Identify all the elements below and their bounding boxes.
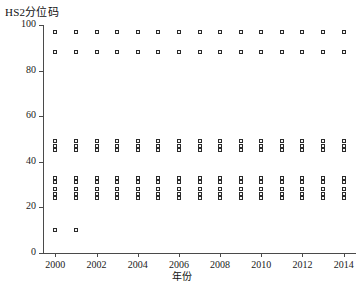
scatter-point	[177, 187, 181, 191]
scatter-point	[74, 196, 78, 200]
scatter-point	[156, 139, 160, 143]
x-axis-label: 年份	[0, 268, 364, 283]
scatter-point	[198, 192, 202, 196]
scatter-point	[53, 187, 57, 191]
scatter-point	[300, 148, 304, 152]
scatter-point	[74, 30, 78, 34]
scatter-point	[239, 30, 243, 34]
chart-title: HS2分位码	[5, 3, 59, 19]
scatter-point	[280, 180, 284, 184]
scatter-point	[259, 180, 263, 184]
x-tick-mark	[261, 253, 262, 257]
scatter-point	[156, 144, 160, 148]
scatter-point	[198, 187, 202, 191]
scatter-point	[74, 180, 78, 184]
scatter-point	[74, 176, 78, 180]
scatter-point	[198, 30, 202, 34]
x-tick-mark	[97, 253, 98, 257]
scatter-point	[321, 148, 325, 152]
scatter-point	[74, 192, 78, 196]
scatter-point	[239, 148, 243, 152]
y-tick-label: 60	[26, 109, 36, 120]
scatter-point	[321, 180, 325, 184]
scatter-point	[280, 148, 284, 152]
scatter-point	[342, 180, 346, 184]
scatter-point	[198, 148, 202, 152]
scatter-point	[115, 139, 119, 143]
scatter-point	[74, 228, 78, 232]
y-tick-label: 100	[21, 18, 36, 29]
scatter-point	[321, 187, 325, 191]
scatter-point	[300, 50, 304, 54]
scatter-point	[280, 50, 284, 54]
scatter-point	[136, 192, 140, 196]
y-tick-mark	[39, 162, 43, 163]
scatter-point	[321, 50, 325, 54]
scatter-point	[280, 196, 284, 200]
scatter-point	[74, 50, 78, 54]
scatter-point	[115, 148, 119, 152]
scatter-point	[136, 196, 140, 200]
scatter-point	[280, 139, 284, 143]
scatter-point	[239, 187, 243, 191]
scatter-point	[53, 228, 57, 232]
y-tick-label: 0	[31, 246, 36, 257]
x-tick-mark	[302, 253, 303, 257]
scatter-point	[280, 187, 284, 191]
scatter-point	[321, 192, 325, 196]
scatter-point	[95, 176, 99, 180]
scatter-point	[342, 139, 346, 143]
scatter-point	[259, 196, 263, 200]
scatter-point	[218, 196, 222, 200]
plot-area: 020406080100 200020022004200620082010201…	[43, 25, 356, 253]
scatter-point	[53, 30, 57, 34]
scatter-point	[300, 187, 304, 191]
scatter-point	[95, 192, 99, 196]
scatter-point	[177, 148, 181, 152]
y-tick-mark	[39, 71, 43, 72]
x-axis-line	[43, 253, 356, 254]
scatter-point	[198, 50, 202, 54]
scatter-point	[342, 30, 346, 34]
scatter-point	[115, 30, 119, 34]
scatter-point	[115, 176, 119, 180]
scatter-point	[95, 144, 99, 148]
scatter-point	[74, 148, 78, 152]
scatter-point	[156, 196, 160, 200]
y-tick-mark	[39, 116, 43, 117]
scatter-point	[259, 176, 263, 180]
scatter-point	[218, 148, 222, 152]
scatter-point	[115, 187, 119, 191]
scatter-point	[136, 139, 140, 143]
scatter-point	[95, 180, 99, 184]
scatter-point	[177, 139, 181, 143]
scatter-point	[136, 187, 140, 191]
scatter-point	[115, 192, 119, 196]
scatter-point	[300, 196, 304, 200]
scatter-point	[95, 148, 99, 152]
scatter-point	[136, 50, 140, 54]
scatter-point	[342, 196, 346, 200]
scatter-point	[321, 30, 325, 34]
scatter-point	[74, 139, 78, 143]
scatter-point	[177, 192, 181, 196]
scatter-point	[53, 50, 57, 54]
scatter-point	[198, 139, 202, 143]
scatter-point	[136, 144, 140, 148]
scatter-point	[239, 139, 243, 143]
x-tick-mark	[179, 253, 180, 257]
scatter-point	[259, 187, 263, 191]
y-tick-mark	[39, 253, 43, 254]
scatter-point	[218, 187, 222, 191]
scatter-point	[239, 196, 243, 200]
y-tick-mark	[39, 25, 43, 26]
scatter-point	[198, 180, 202, 184]
scatter-point	[259, 50, 263, 54]
scatter-point	[136, 30, 140, 34]
scatter-point	[53, 144, 57, 148]
scatter-point	[74, 144, 78, 148]
scatter-point	[239, 180, 243, 184]
scatter-point	[321, 139, 325, 143]
y-tick-mark	[39, 207, 43, 208]
scatter-point	[53, 192, 57, 196]
